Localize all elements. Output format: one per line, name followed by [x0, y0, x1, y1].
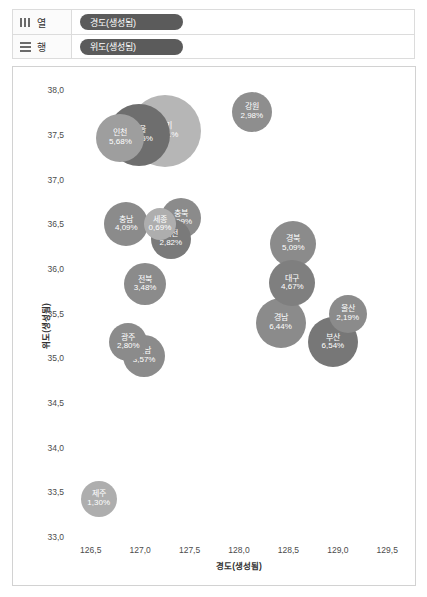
y-axis-tick: 35,5 — [47, 309, 64, 319]
pill-latitude[interactable]: 위도(생성됨) — [80, 39, 183, 55]
bubble-mark[interactable]: 전북3,48% — [124, 263, 166, 305]
x-axis-tick: 126,5 — [80, 545, 101, 555]
y-axis-tick: 37,5 — [47, 130, 64, 140]
y-axis-tick: 34,0 — [47, 443, 64, 453]
shelf-field-columns[interactable]: 경도(생성됨) — [71, 10, 414, 34]
x-axis-tick: 127,5 — [179, 545, 200, 555]
x-axis-title: 경도(생성됨) — [216, 559, 262, 571]
shelf-field-rows[interactable]: 위도(생성됨) — [71, 35, 414, 58]
y-axis-tick: 33,0 — [47, 532, 64, 542]
y-axis-tick: 33,5 — [47, 487, 64, 497]
x-axis-tick: 129,5 — [377, 545, 398, 555]
bubble-value: 3,48% — [134, 284, 157, 293]
columns-icon — [20, 17, 31, 28]
x-axis-tick: 128,5 — [278, 545, 299, 555]
shelf-head-rows: 행 — [13, 39, 71, 54]
bubble-value: 5,68% — [109, 138, 132, 147]
x-axis-tick: 129,0 — [327, 545, 348, 555]
bubble-mark[interactable]: 강원2,98% — [232, 92, 272, 132]
bubble-value: 1,30% — [87, 499, 110, 508]
bubble-value: 6,44% — [269, 323, 292, 332]
bubble-value: 2,98% — [241, 112, 264, 121]
shelf-row-columns: 열 경도(생성됨) — [12, 9, 415, 34]
bubble-mark[interactable]: 대구4,67% — [269, 260, 315, 306]
y-axis-tick: 37,0 — [47, 175, 64, 185]
shelf-row-rows: 행 위도(생성됨) — [12, 34, 415, 59]
bubble-value: 2,80% — [117, 342, 140, 351]
bubble-mark[interactable]: 광주2,80% — [109, 323, 147, 361]
pill-longitude[interactable]: 경도(생성됨) — [80, 14, 183, 30]
bubble-value: 2,19% — [336, 314, 359, 323]
y-axis-tick: 34,5 — [47, 398, 64, 408]
chart-panel: 위도(생성됨) 경도(생성됨) 38,037,537,036,536,035,5… — [12, 66, 416, 586]
shelf-container: 열 경도(생성됨) 행 위도(생성됨) — [12, 9, 415, 59]
shelf-label-columns: 열 — [37, 15, 46, 30]
y-axis-tick: 36,5 — [47, 219, 64, 229]
y-axis-tick: 36,0 — [47, 264, 64, 274]
bubble-value: 0,69% — [149, 224, 172, 233]
bubble-value: 6,54% — [322, 342, 345, 351]
x-axis-tick: 127,0 — [130, 545, 151, 555]
shelf-head-columns: 열 — [13, 15, 71, 30]
bubble-value: 5,09% — [282, 244, 305, 253]
bubble-mark[interactable]: 제주1,30% — [81, 481, 117, 517]
bubble-mark[interactable]: 인천5,68% — [96, 114, 144, 162]
bubble-map-view: 열 경도(생성됨) 행 위도(생성됨) 위도(생성됨) 경도(생성됨) 38,0… — [0, 0, 427, 597]
shelf-label-rows: 행 — [37, 39, 46, 54]
x-axis-tick: 128,0 — [228, 545, 249, 555]
bubble-mark[interactable]: 충남4,09% — [104, 202, 148, 246]
plot-area[interactable]: 경도(생성됨) 38,037,537,036,536,035,535,034,5… — [71, 77, 407, 537]
bubble-value: 4,09% — [115, 224, 138, 233]
bubble-mark[interactable]: 울산2,19% — [329, 295, 367, 333]
bubble-value: 4,67% — [281, 283, 304, 292]
y-axis-tick: 35,0 — [47, 353, 64, 363]
rows-icon — [20, 41, 31, 52]
y-axis-tick: 38,0 — [47, 85, 64, 95]
bubble-mark[interactable]: 세종0,69% — [144, 208, 176, 240]
